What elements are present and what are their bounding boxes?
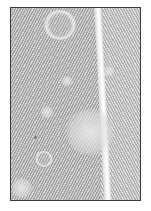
pale-spot-small-2: [40, 106, 54, 118]
pale-spot-top: [43, 10, 77, 40]
pale-spot-large: [65, 108, 115, 156]
dark-speck: [34, 136, 37, 139]
feather-photo: [10, 7, 141, 201]
pale-spot-small-3: [35, 151, 53, 167]
pale-spot-small-1: [61, 76, 73, 86]
pale-spot-small-4: [103, 66, 115, 76]
pale-spot-bottom-left: [11, 178, 33, 198]
